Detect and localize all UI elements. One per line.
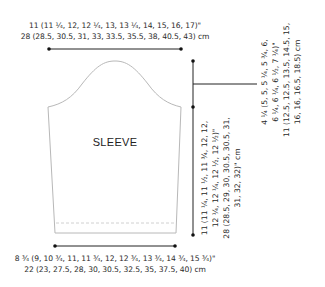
sleeve-length-line3: 28 (28.5, 29, 30, 30.5, 30.5, 31,	[221, 103, 232, 253]
cap-height-label: 4 ¼ (5, 5, 5 ¼, 5 ¾, 6, 6 ¼, 6 ¼, 6 ½, 7…	[259, 27, 303, 137]
cap-height-line4: 16, 16, 16.5, 18.5) cm	[292, 27, 303, 137]
cap-height-line2: 6 ¼, 6 ¼, 6 ½, 7 ¼)"	[270, 27, 281, 137]
upper-width-endpoint	[179, 47, 183, 51]
sleeve-length-line2: 12 ¼, 12 ¼, 12 ½, 12 ½)"	[210, 103, 221, 253]
upper-width-inches: 11 (11 ¼, 12, 12 ¼, 13, 13 ¼, 14, 15, 16…	[29, 21, 201, 30]
cap-top-endpoint	[191, 59, 195, 63]
cuff-width-inches: 8 ¾ (9, 10 ¾, 11, 11 ¾, 12, 12 ¾, 13 ¾, …	[15, 254, 216, 263]
cap-bottom-endpoint	[191, 105, 195, 109]
cap-height-line1: 4 ¼ (5, 5, 5 ¼, 5 ¾, 6,	[259, 27, 270, 137]
sleeve-length-line1: 11 (11 ¼, 11 ½, 11 ¾, 12, 12,	[199, 103, 210, 253]
cuff-width-endpoint	[173, 244, 177, 248]
upper-width-endpoint	[47, 47, 51, 51]
cuff-width-endpoint	[53, 244, 57, 248]
piece-label: SLEEVE	[93, 136, 138, 148]
length-bottom-endpoint	[191, 233, 195, 237]
sleeve-length-line4: 31, 32, 32)" cm	[232, 103, 243, 253]
sleeve-length-label: 11 (11 ¼, 11 ½, 11 ¾, 12, 12, 12 ¼, 12 ¼…	[199, 103, 243, 253]
cuff-width-cm: 22 (23, 27.5, 28, 30, 30.5, 32.5, 35, 37…	[24, 265, 206, 274]
upper-width-cm: 28 (28.5, 30.5, 31, 33, 33.5, 35.5, 38, …	[21, 32, 210, 41]
cap-height-line3: 11 (12.5, 12.5, 13.5, 14.5, 15,	[281, 27, 292, 137]
